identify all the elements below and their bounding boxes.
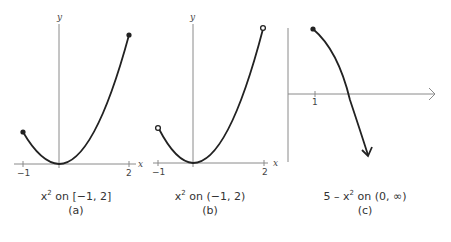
open-endpoint-right <box>261 26 266 31</box>
parabola-curve <box>313 29 368 155</box>
closed-endpoint-left <box>310 26 315 31</box>
tick-label-neg1: −1 <box>152 167 165 177</box>
caption-b: x2 on (−1, 2) (b) <box>140 186 280 218</box>
tick-label-2: 2 <box>262 167 268 177</box>
tick-label-neg1: −1 <box>17 168 30 178</box>
tick-label-1: 1 <box>312 97 318 107</box>
panel-a-graph: −1 2 x y <box>14 12 143 178</box>
tick-label-2: 2 <box>126 168 132 178</box>
panel-c-graph: 1 <box>288 26 435 162</box>
caption-interval: on [−1, 2] <box>52 190 112 203</box>
open-endpoint-left <box>156 126 161 131</box>
caption-interval: on (0, ∞) <box>354 190 406 203</box>
parabola-curve <box>159 29 263 163</box>
caption-interval: on (−1, 2) <box>186 190 246 203</box>
caption-a: x2 on [−1, 2] (a) <box>6 186 146 218</box>
y-axis-label: y <box>56 12 63 22</box>
panel-b-graph: −1 2 x y <box>152 12 278 177</box>
x-axis-label: x <box>273 158 278 168</box>
caption-label: (b) <box>140 204 280 218</box>
caption-c: 5 – x2 on (0, ∞) (c) <box>290 186 440 218</box>
caption-function: 5 – x <box>324 190 350 203</box>
closed-endpoint-right <box>126 32 131 37</box>
caption-label: (c) <box>290 204 440 218</box>
y-axis-label: y <box>189 12 196 22</box>
x-axis-label: x <box>138 159 143 169</box>
parabola-curve <box>23 35 129 164</box>
closed-endpoint-left <box>20 129 25 134</box>
caption-label: (a) <box>6 204 146 218</box>
